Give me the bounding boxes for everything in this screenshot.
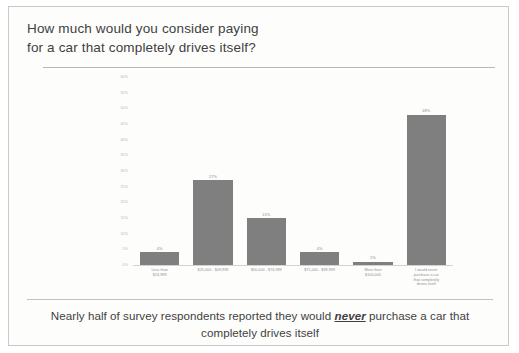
title-divider (43, 67, 495, 68)
y-axis-tick: 35% (121, 153, 129, 157)
x-axis-label: I would neverpurchase a carthat complete… (400, 268, 453, 287)
bar-series: 4%27%15%4%1%48% (133, 77, 453, 265)
y-axis-tick: 50% (121, 106, 129, 110)
bar-value-label: 4% (317, 246, 323, 251)
x-axis-label: $25,000 - $49,999 (186, 268, 239, 287)
bar (140, 252, 179, 265)
bar-chart: 60%55%50%45%40%35%30%25%20%15%10%5%0% 4%… (105, 73, 455, 295)
bar-value-label: 48% (422, 108, 430, 113)
y-axis-tick: 45% (121, 122, 129, 126)
bar-value-label: 4% (157, 246, 163, 251)
x-axis-label: $75,000 - $99,999 (293, 268, 346, 287)
y-axis-tick: 60% (121, 75, 129, 79)
y-axis-tick: 0% (123, 263, 128, 267)
bar-group: 15% (240, 77, 293, 265)
y-axis: 60%55%50%45%40%35%30%25%20%15%10%5%0% (105, 77, 131, 265)
bar-group: 4% (293, 77, 346, 265)
y-axis-tick: 15% (121, 216, 129, 220)
plot-area: 4%27%15%4%1%48% (133, 77, 453, 265)
y-axis-tick: 55% (121, 91, 129, 95)
bar (247, 218, 286, 265)
caption-emphasis: never (335, 309, 366, 322)
y-axis-tick: 20% (121, 200, 129, 204)
x-axis-line (133, 265, 453, 266)
bar-group: 48% (400, 77, 453, 265)
title-line-1: How much would you consider paying (27, 19, 467, 38)
y-axis-tick: 10% (121, 232, 129, 236)
bar-value-label: 1% (370, 255, 376, 260)
bar (193, 180, 232, 265)
x-axis-label: $50,000 - $74,999 (240, 268, 293, 287)
x-axis-label: More than$100,000 (346, 268, 399, 287)
bar (300, 252, 339, 265)
bar-group: 4% (133, 77, 186, 265)
slide-frame: How much would you consider paying for a… (8, 6, 509, 346)
y-axis-tick: 5% (123, 247, 128, 251)
x-axis-label: Less than$24,999 (133, 268, 186, 287)
y-axis-tick: 25% (121, 185, 129, 189)
title-line-2: for a car that completely drives itself? (27, 38, 467, 57)
bar-group: 27% (186, 77, 239, 265)
caption-text: Nearly half of survey respondents report… (29, 307, 491, 341)
bar (407, 115, 446, 265)
bar-value-label: 15% (262, 212, 270, 217)
y-axis-tick: 30% (121, 169, 129, 173)
page-title: How much would you consider paying for a… (27, 19, 467, 57)
caption-before: Nearly half of survey respondents report… (51, 309, 331, 322)
bar-group: 1% (346, 77, 399, 265)
x-axis-labels: Less than$24,999$25,000 - $49,999$50,000… (133, 268, 453, 287)
y-axis-tick: 40% (121, 138, 129, 142)
caption-divider (27, 299, 493, 300)
bar-value-label: 27% (209, 174, 217, 179)
